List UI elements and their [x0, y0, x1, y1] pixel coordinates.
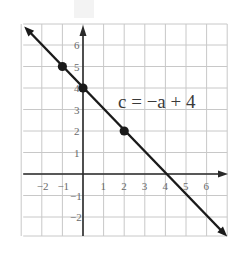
- y-tick-label: 6: [74, 39, 80, 51]
- x-tick-label: 3: [142, 180, 148, 192]
- y-tick-label: 5: [74, 61, 80, 73]
- scan-artifact: [74, 0, 94, 18]
- x-axis-arrow-icon: [218, 171, 228, 178]
- data-point: [120, 126, 129, 135]
- y-tick-label: −2: [70, 211, 82, 223]
- x-tick-label: 6: [204, 180, 210, 192]
- data-point: [58, 62, 67, 71]
- y-tick-label: 1: [74, 147, 80, 159]
- x-tick-label: 4: [162, 180, 168, 192]
- y-axis-arrow-icon: [80, 25, 87, 36]
- y-tick-label: 2: [74, 125, 80, 137]
- x-tick-label: −2: [37, 180, 49, 192]
- equation-label: c = −a + 4: [118, 91, 196, 112]
- x-tick-label: −1: [57, 180, 69, 192]
- x-tick-label: 1: [101, 180, 107, 192]
- line-graph: −2−1123456 654321−1−2 c = −a + 4: [0, 0, 239, 260]
- x-tick-label: 2: [121, 180, 127, 192]
- y-tick-label: −1: [70, 190, 82, 202]
- y-tick-label: 3: [74, 104, 80, 116]
- data-point: [78, 83, 87, 92]
